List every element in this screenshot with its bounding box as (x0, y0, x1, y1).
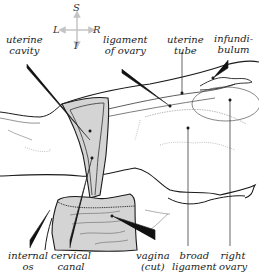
compass-superior: S (73, 2, 80, 13)
label-right-ovary: rightovary (219, 250, 247, 272)
label-infundibulum: infundi-bulum (214, 33, 253, 55)
compass-right: R (93, 24, 101, 35)
label-uterine-tube: uterinetube (167, 34, 204, 56)
label-uterine-cavity: uterinecavity (6, 34, 43, 56)
broad-ligament-lower-edge (0, 168, 255, 198)
label-ligament-of-ovary: ligamentof ovary (103, 34, 148, 56)
label-broad-ligament: broadligament (172, 250, 217, 272)
leader-infundibulum (213, 60, 228, 78)
label-internal-os: internalos (8, 250, 48, 272)
compass-inferior: I (74, 40, 78, 51)
label-vagina: vagina(cut) (136, 250, 170, 272)
label-cervical-canal: cervicalcanal (51, 250, 91, 272)
right-ovary-shape (192, 87, 259, 121)
infundibulum-shape (200, 77, 252, 90)
compass-left: L (53, 24, 60, 35)
leader-internal-os (30, 210, 50, 248)
